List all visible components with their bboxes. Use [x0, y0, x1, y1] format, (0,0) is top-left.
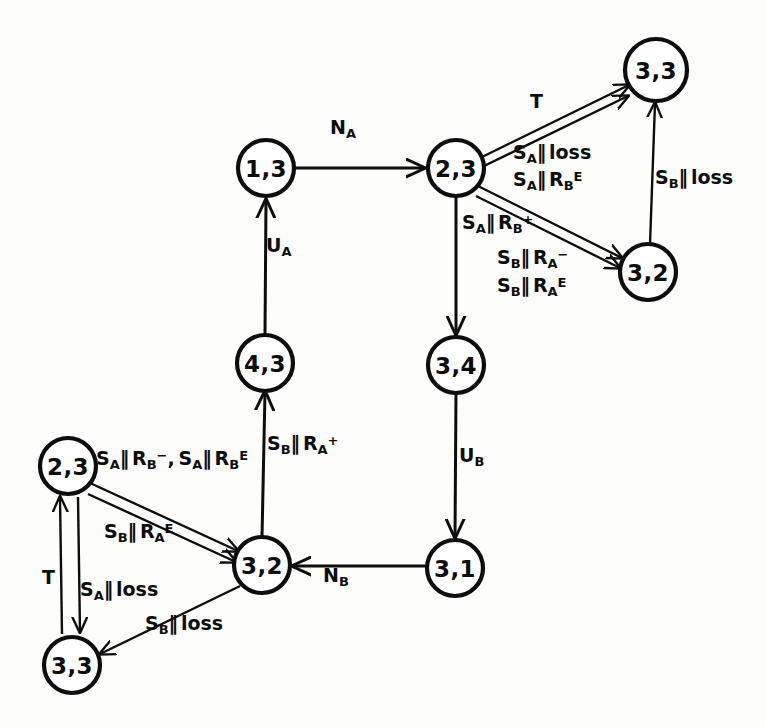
edge-43-to-13	[265, 200, 266, 335]
edge-label-sa-rb-plus: SA‖ RB+	[462, 213, 534, 235]
node-3-3-bottom[interactable]: 3,3	[44, 637, 100, 693]
node-3-2-top[interactable]: 3,2	[620, 244, 676, 300]
node-label: 2,3	[47, 454, 89, 480]
node-3-3-top[interactable]: 3,3	[625, 39, 687, 101]
node-label: 3,2	[241, 553, 283, 579]
node-label: 1,3	[245, 156, 287, 182]
edge-label-sb-loss-bottom: SB‖ loss	[145, 614, 223, 636]
node-1-3[interactable]: 1,3	[238, 140, 294, 196]
node-label: 3,3	[635, 58, 677, 84]
edge-label-sa-pair-bottom: SA‖ RB−, SA‖ RBE	[96, 449, 248, 471]
edge-label-sb-ra-e: SB‖ RAE	[497, 276, 567, 298]
edge-label-sb-rae-bottom: SB‖ RAE	[104, 522, 174, 544]
edge-label-sa-loss-top: SA‖ loss	[513, 143, 591, 165]
node-3-4[interactable]: 3,4	[428, 337, 484, 393]
node-label: 3,3	[51, 653, 93, 679]
node-label: 4,3	[244, 351, 286, 377]
node-3-1[interactable]: 3,1	[427, 540, 483, 596]
edge-label-nb: NB	[323, 566, 349, 588]
edge-label-na: NA	[330, 118, 356, 140]
node-4-3[interactable]: 4,3	[237, 335, 293, 391]
edge-34-to-31-ub	[455, 393, 456, 537]
edge-label-ub: UB	[459, 446, 484, 468]
edge-label-ua: UA	[266, 236, 292, 258]
node-label: 3,1	[434, 556, 476, 582]
edge-label-t-top: T	[530, 92, 543, 111]
state-diagram-canvas: 1,3 2,3 3,3 3,2 4,3 3,4 3,1 3,2	[0, 0, 766, 727]
node-2-3-top[interactable]: 2,3	[428, 140, 484, 196]
node-3-2-bottom[interactable]: 3,2	[234, 537, 290, 593]
edge-label-sa-rbe-top: SA‖ RBE	[513, 170, 583, 192]
node-label: 3,4	[435, 353, 477, 379]
edge-label-t-bottom: T	[42, 568, 55, 587]
node-2-3-bottom[interactable]: 2,3	[40, 438, 96, 494]
edge-32-to-43-sbra	[262, 392, 265, 537]
edge-23bot-to-33bot-saloss	[78, 497, 80, 632]
edge-label-sb-ra-minus: SB‖ RA−	[497, 248, 569, 270]
edge-label-sb-loss-right: SB‖ loss	[655, 168, 733, 190]
edge-label-sa-loss-bottom: SA‖ loss	[80, 580, 158, 602]
node-label: 2,3	[435, 156, 477, 182]
state-transition-graph: 1,3 2,3 3,3 3,2 4,3 3,4 3,1 3,2	[0, 0, 766, 727]
edge-label-sb-ra-plus: SB‖ RA+	[267, 434, 339, 456]
edge-33bot-to-23bot-T	[60, 497, 62, 634]
node-label: 3,2	[627, 260, 669, 286]
